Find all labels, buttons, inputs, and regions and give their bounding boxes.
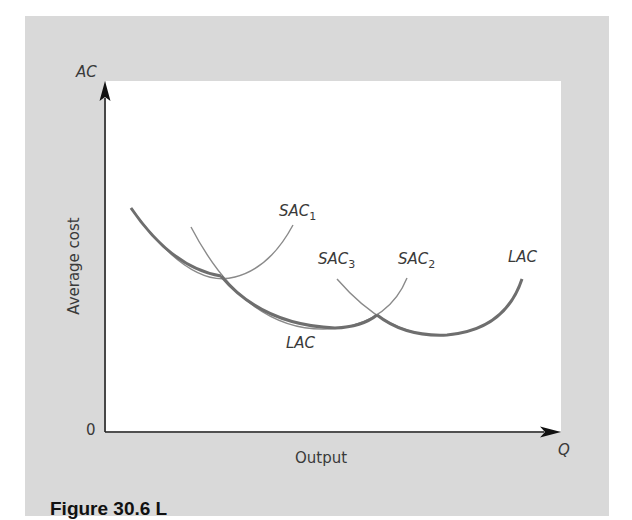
lac-segment-3 [377,279,522,335]
sac1-label-text: SAC [279,202,309,220]
x-axis-label: Output [295,451,347,466]
lac-segment-1 [131,208,221,276]
lac-lower-label: LAC [286,336,315,351]
lac-right-label: LAC [508,250,537,265]
lac-segment-2 [221,276,377,328]
x-axis-symbol: Q [558,443,570,458]
sac2-label-text: SAC [398,250,428,268]
sac3-label-text: SAC [318,250,348,268]
sac1-curve [131,208,293,279]
sac1-label-subscript: 1 [309,210,316,223]
sac3-label-subscript: 3 [348,258,355,271]
sac3-curve [337,279,522,335]
sac2-label-subscript: 2 [428,258,435,271]
figure-caption: Figure 30.6 L [50,498,167,520]
y-axis-label: Average cost [65,217,83,315]
y-axis-symbol: AC [76,65,97,80]
origin-label: 0 [86,423,96,438]
sac3-label: SAC3 [318,252,355,267]
sac2-label: SAC2 [398,252,435,267]
sac1-label: SAC1 [279,204,316,219]
